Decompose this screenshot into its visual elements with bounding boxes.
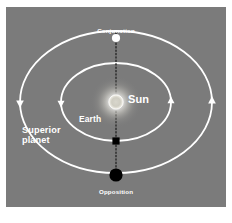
label-opposition: Opposition [99, 189, 133, 196]
earth-orbit-arrow-right-icon [168, 97, 175, 104]
label-earth: Earth [79, 115, 101, 125]
figure-caption [7, 214, 217, 223]
diagram-stage: Conjunction Opposition Sun Earth Superio… [6, 7, 226, 207]
label-superior-planet-line2: planet [22, 135, 61, 145]
label-superior-planet: Superior planet [22, 125, 61, 146]
superior-orbit-arrow-right-icon [208, 96, 216, 103]
orbit-diagram-svg [6, 7, 226, 207]
figure-container: Conjunction Opposition Sun Earth Superio… [0, 0, 232, 223]
planet-at-conjunction [112, 34, 120, 42]
label-superior-planet-line1: Superior [22, 125, 61, 135]
label-conjunction: Conjunction [97, 28, 135, 35]
diagram-panel: Conjunction Opposition Sun Earth Superio… [6, 7, 226, 207]
sun-body [109, 95, 123, 109]
label-sun: Sun [128, 93, 149, 105]
earth-orbit-arrow-left-icon [58, 101, 65, 108]
earth-body [112, 137, 119, 144]
planet-at-opposition [109, 168, 122, 181]
superior-orbit-arrow-left-icon [16, 101, 24, 108]
